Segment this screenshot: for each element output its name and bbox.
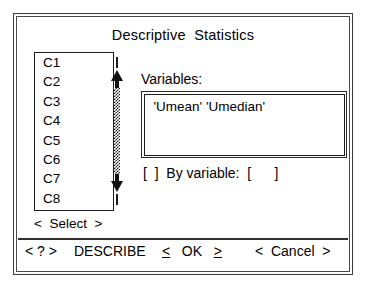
scroll-up-arrow-icon[interactable]	[111, 70, 123, 81]
variables-input-inner-frame: 'Umean' 'Umedian'	[144, 94, 345, 156]
list-item[interactable]: C2	[35, 72, 113, 91]
cancel-left-angle-icon: <	[255, 243, 263, 259]
list-item[interactable]: C6	[35, 150, 113, 169]
dialog-body: Descriptive Statistics C1 C2 C3 C4 C5 C6…	[17, 17, 349, 271]
list-item[interactable]: C3	[35, 92, 113, 111]
select-button[interactable]: < Select >	[34, 216, 118, 235]
columns-listbox[interactable]: C1 C2 C3 C4 C5 C6 C7 C8	[34, 52, 114, 211]
select-button-label: Select	[49, 216, 87, 231]
list-item[interactable]: C7	[35, 169, 113, 188]
select-left-angle-icon: <	[34, 216, 42, 231]
ok-right-angle-icon: >	[214, 243, 222, 259]
page-title: Descriptive Statistics	[17, 27, 349, 43]
scroll-down-arrow-stem-icon[interactable]	[115, 174, 119, 181]
by-variable-field[interactable]: [ ]	[247, 165, 278, 181]
list-item[interactable]: C5	[35, 131, 113, 150]
by-variable-row: [ ] By variable: [ ]	[143, 165, 278, 181]
button-bar: < ? > DESCRIBE < OK > < Cancel >	[17, 243, 349, 269]
list-item[interactable]: C1	[35, 53, 113, 72]
scrollbar-rail-bottom	[116, 194, 118, 205]
cancel-button-label: Cancel	[271, 243, 315, 259]
variables-input-value[interactable]: 'Umean' 'Umedian'	[145, 95, 344, 114]
by-variable-label: By variable:	[166, 165, 239, 181]
dialog-window: Descriptive Statistics C1 C2 C3 C4 C5 C6…	[13, 13, 353, 275]
variables-label: Variables:	[141, 71, 202, 87]
describe-label: DESCRIBE	[74, 243, 146, 259]
scrollbar-rail-top	[116, 57, 118, 68]
by-variable-checkbox[interactable]: [ ]	[143, 165, 159, 181]
dialog-window-inner-frame: Descriptive Statistics C1 C2 C3 C4 C5 C6…	[16, 16, 350, 272]
ok-button-label: OK	[182, 243, 202, 259]
ok-left-angle-icon: <	[162, 243, 170, 259]
list-item[interactable]: C4	[35, 111, 113, 130]
columns-scrollbar[interactable]	[109, 57, 125, 205]
variables-input[interactable]: 'Umean' 'Umedian'	[141, 91, 347, 158]
select-right-angle-icon: >	[94, 216, 102, 231]
help-button[interactable]: < ? >	[25, 243, 57, 259]
divider	[18, 238, 348, 240]
scrollbar-track[interactable]	[114, 88, 120, 174]
cancel-button[interactable]: < Cancel >	[255, 243, 331, 259]
scroll-down-arrow-icon[interactable]	[111, 181, 123, 192]
ok-button[interactable]: < OK >	[162, 243, 222, 259]
cancel-right-angle-icon: >	[322, 243, 330, 259]
list-item[interactable]: C8	[35, 189, 113, 208]
scroll-up-arrow-stem-icon[interactable]	[115, 81, 119, 88]
